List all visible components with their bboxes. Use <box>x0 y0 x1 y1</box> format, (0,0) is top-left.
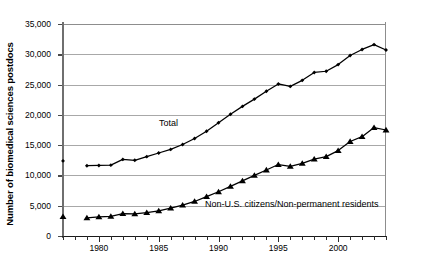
data-point-marker <box>145 155 149 159</box>
x-tick-mark <box>99 236 100 242</box>
x-tick-mark <box>278 236 279 242</box>
x-tick-mark <box>254 236 255 240</box>
x-tick-label: 2000 <box>329 244 348 253</box>
data-point-marker <box>169 147 173 151</box>
data-point-marker <box>239 178 246 184</box>
x-tick-mark <box>87 236 88 240</box>
x-tick-mark <box>171 236 172 240</box>
data-point-marker <box>371 124 378 130</box>
data-point-marker <box>384 48 388 52</box>
x-tick-mark <box>290 236 291 240</box>
x-tick-mark <box>230 236 231 240</box>
x-tick-mark <box>338 236 339 242</box>
x-tick-label: 1995 <box>269 244 288 253</box>
x-tick-mark <box>111 236 112 240</box>
x-tick-mark <box>219 236 220 242</box>
series-label-non-us-citizens: Non-U.S. citizens/Non-permanent resident… <box>205 200 379 209</box>
data-point-marker <box>121 157 125 161</box>
x-tick-mark <box>362 236 363 240</box>
x-tick-label: 1980 <box>89 244 108 253</box>
x-tick-mark <box>135 236 136 240</box>
data-point-marker <box>275 161 282 167</box>
x-tick-mark <box>374 236 375 240</box>
data-point-marker <box>372 43 376 47</box>
data-point-marker <box>227 183 234 189</box>
data-series-layer <box>0 0 422 268</box>
data-point-marker <box>85 164 89 168</box>
x-tick-mark <box>326 236 327 240</box>
series-label-total: Total <box>159 119 178 128</box>
data-point-marker <box>97 163 101 167</box>
data-point-marker <box>263 167 270 173</box>
x-tick-mark <box>123 236 124 240</box>
data-point-marker <box>61 159 65 163</box>
data-point-marker <box>133 158 137 162</box>
data-point-marker <box>323 154 330 160</box>
data-point-marker <box>60 213 67 219</box>
data-point-marker <box>109 163 113 167</box>
x-tick-mark <box>147 236 148 240</box>
x-tick-mark <box>207 236 208 240</box>
data-point-marker <box>251 172 258 178</box>
data-point-marker <box>215 189 222 195</box>
x-tick-mark <box>302 236 303 240</box>
x-tick-mark <box>350 236 351 240</box>
x-tick-mark <box>195 236 196 240</box>
chart-container: Number of biomedical sciences postdocs 0… <box>0 0 422 268</box>
x-tick-label: 1985 <box>149 244 168 253</box>
x-tick-mark <box>314 236 315 240</box>
x-tick-mark <box>386 236 387 240</box>
x-tick-mark <box>242 236 243 240</box>
x-tick-mark <box>75 236 76 240</box>
x-tick-mark <box>159 236 160 242</box>
x-tick-mark <box>63 236 64 240</box>
x-tick-mark <box>183 236 184 240</box>
data-point-marker <box>157 151 161 155</box>
x-tick-mark <box>266 236 267 240</box>
x-tick-label: 1990 <box>209 244 228 253</box>
